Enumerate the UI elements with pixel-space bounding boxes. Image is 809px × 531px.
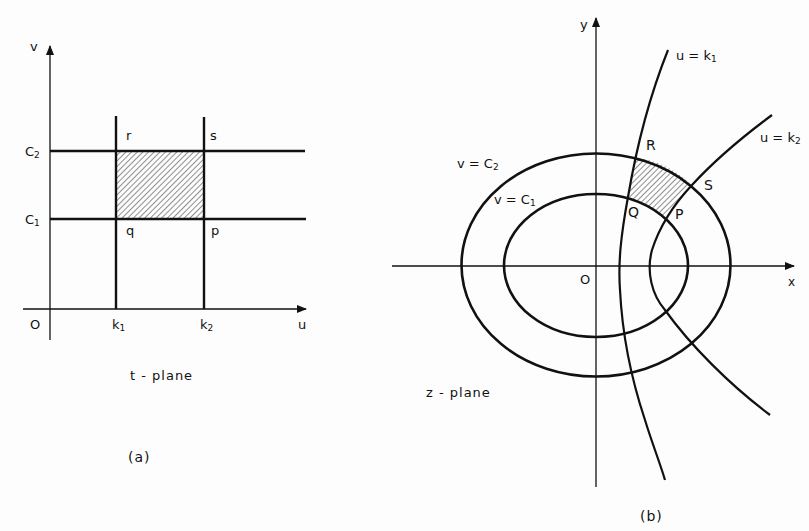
tick-label-k2-sub: 2: [208, 323, 214, 333]
v-axis-label: v: [30, 40, 38, 53]
tick-label-c2: C2: [25, 145, 40, 160]
tick-label-c2-text: C: [25, 144, 34, 159]
corner-label-s: s: [210, 129, 217, 142]
corner-label-q: q: [126, 224, 134, 237]
curve-label-v-c2: v = C2: [457, 157, 499, 172]
curve-label-u-k1-text: u = k: [676, 48, 711, 63]
plane-label-z: z - plane: [426, 386, 491, 399]
curve-label-v-c1: v = C1: [494, 193, 536, 208]
corner-label-P: P: [675, 207, 683, 221]
caption-b: (b): [640, 509, 663, 523]
curve-label-u-k2: u = k2: [760, 131, 801, 146]
u-axis-label: u: [298, 318, 306, 331]
curve-label-v-c2-text: v = C: [457, 156, 493, 171]
tick-label-k1-sub: 1: [120, 323, 126, 333]
tick-label-c1-text: C: [25, 212, 34, 227]
curve-label-v-c2-sub: 2: [493, 162, 499, 172]
tick-label-c1: C1: [25, 213, 40, 228]
curve-u-k1: [619, 50, 668, 480]
plane-label-t: t - plane: [130, 369, 193, 382]
figure-canvas: [0, 0, 809, 531]
curve-label-u-k2-text: u = k: [760, 130, 795, 145]
x-axis-label: x: [788, 276, 795, 288]
curve-label-v-c1-sub: 1: [530, 198, 536, 208]
curve-u-k2: [650, 115, 772, 415]
curve-label-u-k1: u = k1: [676, 49, 717, 64]
panel-b-z-plane: [392, 18, 794, 487]
tick-label-k2: k2: [200, 318, 213, 333]
tick-label-k2-text: k: [200, 317, 208, 332]
tick-label-c2-sub: 2: [34, 150, 40, 160]
curve-label-u-k1-sub: 1: [711, 54, 717, 64]
shaded-rect-pqrs: [116, 151, 204, 219]
corner-label-p: p: [211, 224, 219, 237]
curve-label-u-k2-sub: 2: [795, 136, 801, 146]
corner-label-S: S: [704, 178, 713, 192]
panel-a-t-plane: [23, 46, 306, 340]
origin-label-b: O: [580, 273, 590, 286]
caption-a: (a): [128, 450, 151, 464]
y-axis-label: y: [580, 18, 588, 31]
tick-label-c1-sub: 1: [34, 218, 40, 228]
curve-label-v-c1-text: v = C: [494, 192, 530, 207]
corner-label-Q: Q: [628, 205, 639, 219]
tick-label-k1-text: k: [112, 317, 120, 332]
corner-label-r: r: [126, 129, 131, 142]
corner-label-R: R: [646, 138, 656, 152]
tick-label-k1: k1: [112, 318, 125, 333]
origin-label-a: O: [30, 318, 40, 331]
